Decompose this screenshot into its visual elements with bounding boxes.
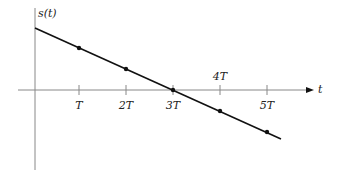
sample-point-5T [265, 130, 269, 134]
tick-label-3T: 3T [166, 99, 182, 112]
y-axis-label: s(t) [38, 7, 57, 20]
sample-point-T [77, 46, 81, 50]
tick-label-T: T [75, 99, 84, 112]
tick-label-5T: 5T [260, 99, 276, 112]
sample-point-4T [218, 109, 222, 113]
sample-point-3T [171, 88, 175, 92]
tick-label-4T: 4T [212, 70, 229, 83]
tick-label-2T: 2T [118, 99, 135, 112]
signal-line [35, 28, 281, 139]
signal-diagram: s(t) t T 2T 3T 4T 5T [0, 0, 339, 177]
sample-point-2T [124, 67, 128, 71]
x-axis-arrow-icon [306, 87, 314, 93]
x-axis-label: t [318, 83, 323, 96]
